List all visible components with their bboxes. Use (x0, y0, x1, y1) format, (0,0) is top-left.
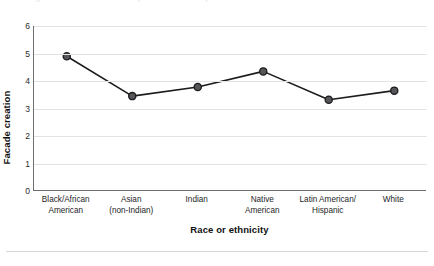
x-tick-label: White (383, 195, 404, 206)
x-tick-label-line: White (383, 195, 404, 206)
plot-frame: 0123456 (33, 26, 426, 191)
gridline (34, 26, 427, 27)
y-tick-label: 6 (25, 21, 30, 31)
y-axis-title-text: Facade creation (2, 90, 13, 164)
bottom-divider (6, 251, 428, 252)
y-axis-title: Facade creation (0, 62, 14, 192)
y-tick-label: 2 (25, 131, 30, 141)
data-point-marker[interactable] (391, 87, 398, 94)
x-axis-tick-labels: Black/AfricanAmericanAsian(non-Indian)In… (33, 195, 426, 221)
data-point-marker[interactable] (129, 93, 136, 100)
gridline (34, 81, 427, 82)
x-tick-label: Black/AfricanAmerican (42, 195, 90, 216)
gridline (34, 109, 427, 110)
x-tick-label: NativeAmerican (245, 195, 280, 216)
gridline (34, 54, 427, 55)
x-tick-label-line: Hispanic (300, 206, 356, 217)
y-tick-label: 3 (25, 104, 30, 114)
figure-caption-fragment: Figure 2. Facade creation by race or eth… (28, 0, 358, 2)
x-tick-label: Indian (186, 195, 208, 206)
x-tick-label-line: Native (245, 195, 280, 206)
y-tick-label: 0 (25, 186, 30, 196)
x-tick-label: Asian(non-Indian) (109, 195, 153, 216)
series-line (67, 56, 395, 99)
y-tick-label: 5 (25, 49, 30, 59)
x-tick-label: Latin American/Hispanic (300, 195, 356, 216)
x-tick-label-line: Black/African (42, 195, 90, 206)
y-tick-label: 1 (25, 159, 30, 169)
y-tick-label: 4 (25, 76, 30, 86)
gridline (34, 136, 427, 137)
x-tick-label-line: Latin American/ (300, 195, 356, 206)
x-tick-label-line: American (245, 206, 280, 217)
data-point-marker[interactable] (260, 68, 267, 75)
chart-figure: Figure 2. Facade creation by race or eth… (0, 0, 434, 266)
x-axis-title: Race or ethnicity (33, 224, 426, 235)
plot-area: 0123456 (34, 26, 426, 190)
x-tick-label-line: Asian (109, 195, 153, 206)
data-point-marker[interactable] (194, 83, 201, 90)
x-tick-label-line: American (42, 206, 90, 217)
x-tick-label-line: Indian (186, 195, 208, 206)
x-tick-label-line: (non-Indian) (109, 206, 153, 217)
data-point-marker[interactable] (325, 96, 332, 103)
gridline (34, 164, 427, 165)
